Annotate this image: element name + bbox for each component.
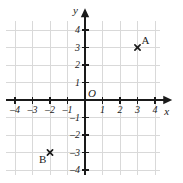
y-axis-tick-label: –4 — [70, 165, 80, 175]
point-label-b: B — [39, 154, 46, 165]
coordinate-plane-figure: –4–3–2–112344321–1–2–3–4AB x y O — [0, 0, 183, 183]
x-axis-tick-label: –2 — [45, 105, 55, 115]
y-axis-tick-label: 3 — [75, 43, 80, 53]
y-axis-arrowhead — [81, 8, 89, 17]
x-axis-tick-label: 3 — [135, 105, 140, 115]
x-axis-tick-label: –3 — [28, 105, 38, 115]
y-axis-tick-label: 1 — [75, 78, 80, 88]
x-axis-label: x — [164, 106, 169, 117]
y-axis-tick-label: –1 — [70, 113, 80, 123]
x-axis-tick-label: –4 — [10, 105, 20, 115]
x-axis-tick-label: 1 — [100, 105, 105, 115]
y-axis-tick-label: 4 — [75, 25, 80, 35]
y-axis-tick-label: –3 — [70, 148, 80, 158]
x-axis-arrowhead — [163, 96, 172, 104]
y-axis-tick-label: –2 — [70, 130, 80, 140]
y-axis-tick-label: 2 — [75, 60, 80, 70]
origin-label: O — [88, 88, 96, 99]
y-axis-label: y — [73, 5, 78, 16]
point-label-a: A — [142, 35, 150, 46]
x-axis-tick-label: 2 — [118, 105, 123, 115]
x-axis-tick-label: 4 — [153, 105, 158, 115]
